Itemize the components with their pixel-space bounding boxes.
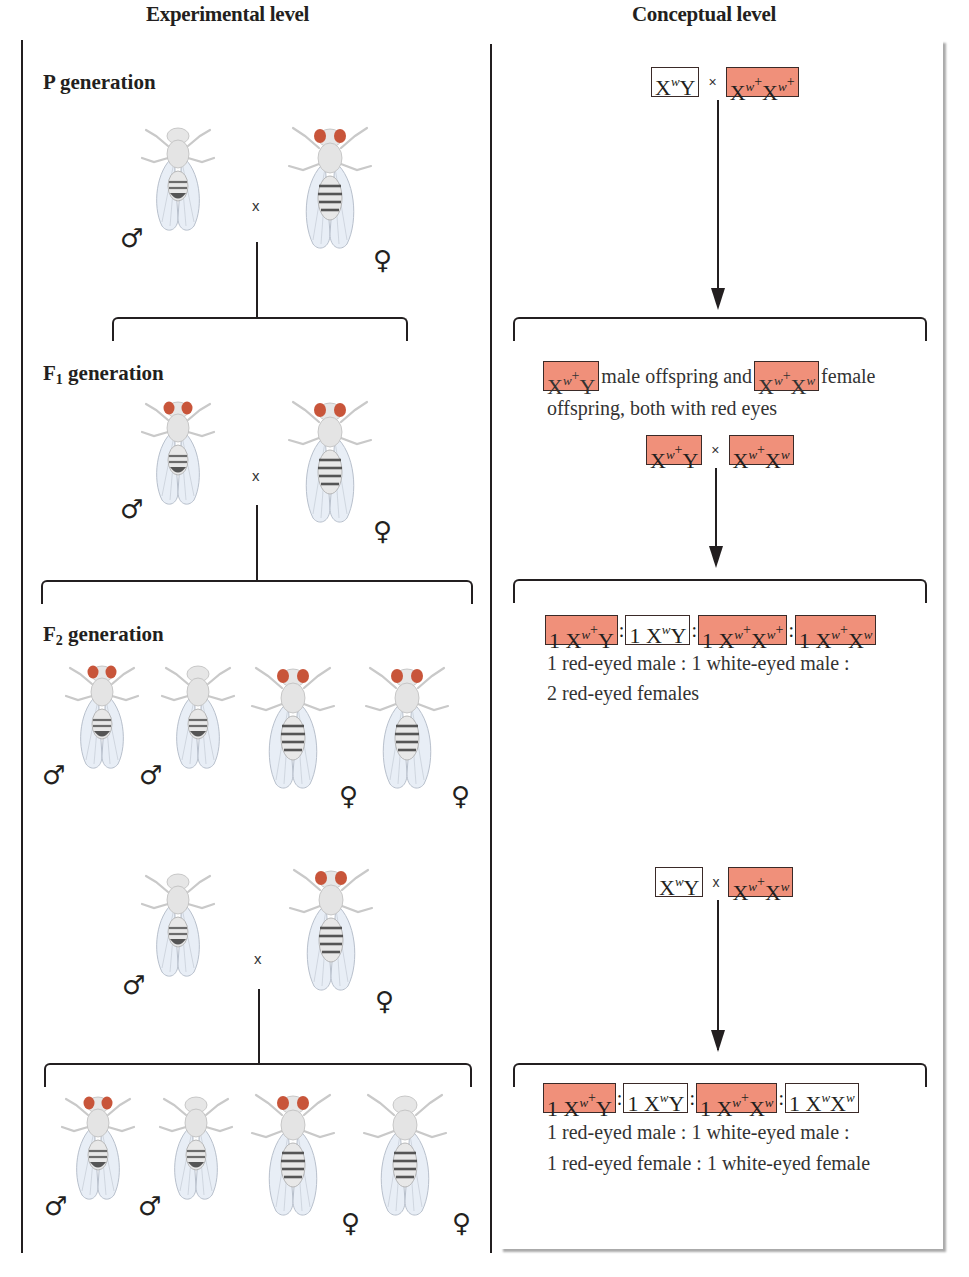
arrow-down-icon bbox=[709, 546, 723, 568]
f1-description-line1: Xw+Ymale offspring andXw+Xwfemale bbox=[543, 361, 876, 391]
p-cross-genotypes: XwY×Xw+Xw+ bbox=[651, 67, 799, 97]
genotype-box-red: Xw+Xw bbox=[728, 867, 793, 897]
genotype-box-red: Xw+Y bbox=[646, 435, 702, 465]
arrow-shaft bbox=[717, 900, 719, 1050]
genotype-box-white: 1 XwY bbox=[623, 1083, 688, 1113]
fly-tc-male-white-eyed bbox=[156, 1087, 236, 1205]
fly-tc-female-white-eyed bbox=[362, 1087, 448, 1222]
genotype-box-red: 1 Xw+Y bbox=[545, 615, 618, 645]
fly-p-female-red-eyed bbox=[287, 120, 373, 255]
fly-f2-male-red-eyed bbox=[62, 656, 142, 774]
genotype-box-red: Xw+Xw bbox=[729, 435, 794, 465]
male-symbol: ♂ bbox=[139, 762, 162, 788]
f1-description-line2: offspring, both with red eyes bbox=[547, 395, 777, 421]
p-generation-label: P generation bbox=[43, 70, 156, 95]
center-divider-line bbox=[490, 44, 492, 1253]
cross-sign: × bbox=[702, 442, 728, 458]
genotype-box-red: 1 Xw+Xw+ bbox=[698, 615, 787, 645]
male-symbol: ♂ bbox=[138, 1193, 161, 1219]
cross-sign: × bbox=[699, 74, 725, 90]
fly-tc-male-red-eyed bbox=[58, 1087, 138, 1205]
left-border-line bbox=[21, 40, 23, 1253]
fly-f2-male-white-eyed bbox=[158, 656, 238, 774]
testcross-phenotype-line1: 1 red-eyed male : 1 white-eyed male : bbox=[547, 1119, 850, 1145]
genotype-box-red: 1 Xw+Xw bbox=[795, 615, 877, 645]
f1-cross-genotypes: Xw+Y×Xw+Xw bbox=[646, 435, 794, 465]
arrow-down-icon bbox=[711, 288, 725, 310]
cross-sign: x bbox=[252, 197, 260, 214]
male-symbol: ♂ bbox=[42, 762, 65, 788]
fly-testcross-female-red-eyed bbox=[288, 862, 374, 997]
cross-descent-line bbox=[256, 242, 258, 319]
testcross-offspring-bracket bbox=[44, 1063, 472, 1087]
genotype-box-red: Xw+Xw bbox=[754, 361, 819, 391]
p-conceptual-bracket bbox=[513, 317, 927, 341]
fly-f1-male-red-eyed bbox=[138, 392, 218, 510]
female-symbol: ♀ bbox=[341, 1210, 360, 1236]
testcross-genotype-ratio: 1 Xw+Y:1 XwY:1 Xw+Xw:1 XwXw bbox=[543, 1083, 859, 1113]
arrow-down-icon bbox=[711, 1030, 725, 1052]
cross-sign: x bbox=[703, 874, 728, 890]
female-symbol: ♀ bbox=[373, 518, 392, 544]
f2-genotype-ratio: 1 Xw+Y:1 XwY:1 Xw+Xw+:1 Xw+Xw bbox=[545, 615, 876, 645]
f2-phenotype-line1: 1 red-eyed male : 1 white-eyed male : bbox=[547, 650, 850, 676]
cross-sign: x bbox=[254, 950, 262, 967]
genotype-box-red: Xw+Y bbox=[543, 361, 599, 391]
female-symbol: ♀ bbox=[451, 783, 470, 809]
f2-phenotype-line2: 2 red-eyed females bbox=[547, 680, 699, 706]
cross-descent-line bbox=[258, 989, 260, 1064]
genotype-box-white: 1 XwXw bbox=[785, 1083, 859, 1113]
fly-f1-female-red-eyed bbox=[287, 394, 373, 529]
fly-f2-female-red-eyed bbox=[250, 660, 336, 795]
conceptual-level-header: Conceptual level bbox=[632, 2, 776, 27]
fly-f2-female-red-eyed bbox=[364, 660, 450, 795]
female-symbol: ♀ bbox=[339, 783, 358, 809]
f1-generation-label: F1 generation bbox=[43, 361, 164, 388]
fly-p-male-white-eyed bbox=[138, 118, 218, 236]
experimental-level-header: Experimental level bbox=[146, 2, 309, 27]
genotype-box-white: XwY bbox=[651, 67, 699, 97]
fly-testcross-male-white-eyed bbox=[138, 864, 218, 982]
cross-sign: x bbox=[252, 467, 260, 484]
female-symbol: ♀ bbox=[375, 988, 394, 1014]
male-symbol: ♂ bbox=[122, 972, 145, 998]
f1-offspring-bracket bbox=[41, 580, 473, 604]
genotype-box-red: Xw+Xw+ bbox=[726, 67, 799, 97]
genotype-box-white: XwY bbox=[655, 867, 703, 897]
female-symbol: ♀ bbox=[452, 1210, 471, 1236]
female-symbol: ♀ bbox=[373, 247, 392, 273]
male-symbol: ♂ bbox=[120, 225, 143, 251]
f1-conceptual-bracket bbox=[513, 579, 927, 603]
arrow-shaft bbox=[715, 468, 717, 548]
genotype-box-red: 1 Xw+Y bbox=[543, 1083, 616, 1113]
p-offspring-bracket bbox=[112, 317, 408, 341]
male-symbol: ♂ bbox=[120, 496, 143, 522]
testcross-phenotype-line2: 1 red-eyed female : 1 white-eyed female bbox=[547, 1150, 870, 1176]
f2-generation-label: F2 generation bbox=[43, 622, 164, 649]
cross-descent-line bbox=[256, 505, 258, 581]
arrow-shaft bbox=[717, 100, 719, 290]
male-symbol: ♂ bbox=[44, 1193, 67, 1219]
genotype-box-white: 1 XwY bbox=[625, 615, 690, 645]
testcross-genotypes: XwYxXw+Xw bbox=[655, 867, 793, 897]
fly-tc-female-red-eyed bbox=[250, 1087, 336, 1222]
genotype-box-red: 1 Xw+Xw bbox=[696, 1083, 778, 1113]
